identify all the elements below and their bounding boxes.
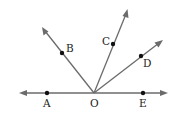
right-arrowhead-icon <box>160 90 168 96</box>
ray-OD-arrowhead-icon <box>155 40 164 48</box>
label-B: B <box>66 42 74 54</box>
ray-OB <box>42 27 94 93</box>
point-C <box>111 42 115 46</box>
label-C: C <box>102 35 110 47</box>
left-arrowhead-icon <box>19 90 27 96</box>
label-E: E <box>139 97 147 109</box>
ray-OC-arrowhead-icon <box>123 9 129 18</box>
ray-diagram: A B C D E O <box>0 0 172 115</box>
label-O: O <box>90 97 99 109</box>
point-E <box>141 91 145 95</box>
point-B <box>60 51 64 55</box>
label-D: D <box>143 57 151 69</box>
ray-line <box>45 31 94 93</box>
point-A <box>45 91 49 95</box>
label-A: A <box>42 97 51 109</box>
